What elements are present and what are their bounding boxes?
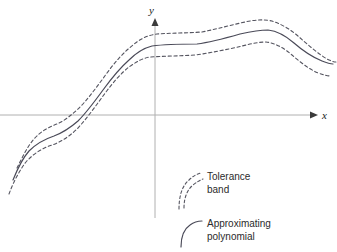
y-axis-label: y [148,4,154,16]
tolerance-band-lower-curve [9,42,331,194]
legend-tolerance-label-line2: band [207,184,229,195]
legend-tolerance-band-swatch [179,173,203,209]
legend-polynomial-label-line2: polynomial [207,231,255,242]
x-axis-arrowhead [310,112,318,119]
legend-dashed-arc-lower [184,179,203,208]
legend-polynomial-label-line1: Approximating [207,218,271,229]
legend-dashed-arc-upper [179,173,201,209]
figure-container: x y Tolerance band Approximating polynom… [0,0,337,252]
legend-tolerance-label-line1: Tolerance [207,171,251,182]
approximating-polynomial-curve [13,30,333,180]
tolerance-band-upper-curve [17,20,336,168]
x-axis-label: x [321,109,327,121]
y-axis-arrowhead [152,18,159,26]
legend-solid-arc [181,221,202,247]
plot-svg: x y Tolerance band Approximating polynom… [0,0,337,252]
